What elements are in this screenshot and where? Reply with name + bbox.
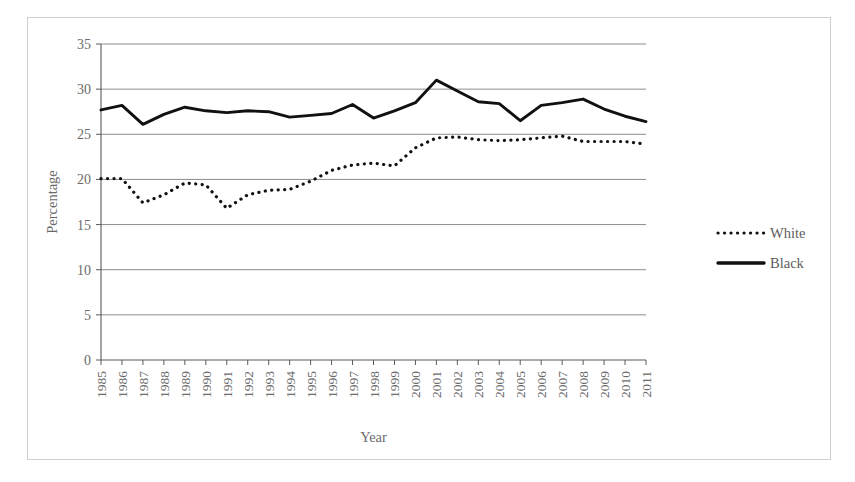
- y-tick-label-20: 20: [77, 172, 91, 187]
- x-tick-label-2001: 2001: [429, 371, 444, 398]
- x-tick-label-2008: 2008: [576, 371, 591, 398]
- x-tick-label-1990: 1990: [199, 371, 214, 398]
- x-tick-label-2002: 2002: [450, 371, 465, 398]
- x-tick-label-2006: 2006: [534, 371, 549, 398]
- legend-label-white: White: [770, 225, 805, 241]
- x-tick-label-1993: 1993: [262, 371, 277, 398]
- series-line-black: [101, 80, 646, 124]
- series-line-white: [101, 136, 646, 208]
- x-tick-label-1994: 1994: [283, 371, 298, 398]
- y-tick-label-0: 0: [84, 353, 91, 368]
- x-tick-label-2007: 2007: [555, 371, 570, 398]
- x-tick-label-2004: 2004: [492, 371, 507, 398]
- x-tick-label-2011: 2011: [639, 371, 654, 398]
- x-tick-label-1985: 1985: [94, 371, 109, 398]
- x-tick-label-1999: 1999: [387, 371, 402, 398]
- x-tick-label-1998: 1998: [367, 371, 382, 398]
- y-axis-title: Percentage: [44, 170, 60, 234]
- x-tick-label-1988: 1988: [157, 371, 172, 398]
- chart-figure: 0510152025303519851986198719881989199019…: [0, 0, 855, 482]
- y-tick-label-35: 35: [77, 37, 91, 52]
- x-tick-label-2009: 2009: [597, 371, 612, 398]
- x-tick-label-1987: 1987: [136, 371, 151, 398]
- x-tick-label-1986: 1986: [115, 371, 130, 398]
- y-tick-label-15: 15: [77, 218, 91, 233]
- x-tick-label-2010: 2010: [618, 371, 633, 398]
- x-tick-label-2000: 2000: [408, 371, 423, 398]
- legend-label-black: Black: [770, 255, 805, 271]
- x-tick-label-1989: 1989: [178, 371, 193, 398]
- x-tick-label-1997: 1997: [346, 371, 361, 398]
- y-tick-label-30: 30: [77, 82, 91, 97]
- y-tick-label-5: 5: [84, 308, 91, 323]
- line-chart: 0510152025303519851986198719881989199019…: [0, 0, 855, 482]
- x-tick-label-2005: 2005: [513, 371, 528, 398]
- x-tick-label-1992: 1992: [241, 371, 256, 398]
- y-tick-label-25: 25: [77, 127, 91, 142]
- x-tick-label-1996: 1996: [325, 371, 340, 398]
- x-tick-label-1991: 1991: [220, 371, 235, 398]
- y-tick-label-10: 10: [77, 263, 91, 278]
- x-axis-title: Year: [360, 429, 387, 445]
- x-tick-label-1995: 1995: [304, 371, 319, 398]
- x-tick-label-2003: 2003: [471, 371, 486, 398]
